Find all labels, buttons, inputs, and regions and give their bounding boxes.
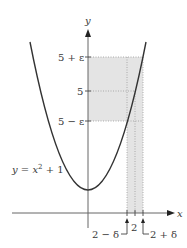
x-axis-arrow-icon [167, 210, 175, 216]
y-tick-5-minus-eps: 5 − ε [58, 116, 84, 127]
delta-band [127, 57, 143, 213]
y-tick-5: 5 [77, 86, 83, 97]
x-tick-2-plus-delta: 2 + δ [150, 229, 177, 240]
y-axis-label: y [84, 15, 91, 26]
function-label: y = x2 + 1 [11, 163, 64, 175]
arrow-2-plus-delta-icon [141, 218, 145, 223]
y-tick-5-plus-eps: 5 + ε [58, 52, 84, 63]
arrow-2-minus-delta-icon [125, 218, 129, 223]
y-axis-arrow-icon [85, 29, 91, 37]
epsilon-delta-diagram: y x 5 + ε 5 5 − ε 2 − δ 2 2 + δ y = x2 +… [0, 0, 187, 248]
x-axis-label: x [177, 208, 183, 219]
x-tick-2: 2 [131, 222, 137, 233]
x-tick-2-minus-delta: 2 − δ [92, 229, 119, 240]
